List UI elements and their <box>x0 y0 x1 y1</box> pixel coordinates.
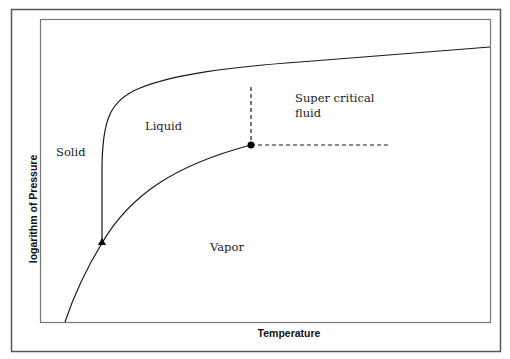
vaporization-curve <box>102 145 251 243</box>
supercritical-label-line2: fluid <box>295 106 322 120</box>
critical-point-marker <box>248 142 255 149</box>
supercritical-label-line1: Super critical <box>295 91 375 105</box>
solid-label: Solid <box>56 145 86 159</box>
sublimation-curve <box>65 243 102 322</box>
outer-frame <box>12 10 501 352</box>
liquid-label: Liquid <box>145 119 183 133</box>
y-axis-label: logarithm of Pressure <box>27 155 39 264</box>
x-axis-label: Temperature <box>258 327 321 339</box>
phase-diagram: Solid Liquid Vapor Super critical fluid … <box>0 0 510 359</box>
vapor-label: Vapor <box>209 240 244 254</box>
